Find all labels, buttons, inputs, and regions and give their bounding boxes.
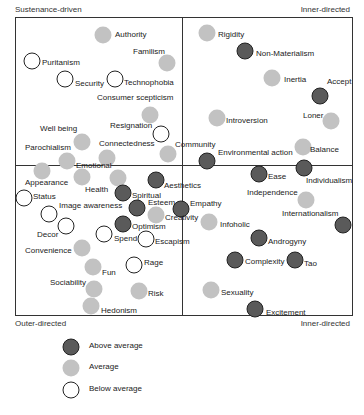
point-label-empathy: Empathy	[190, 199, 222, 208]
point-label-esteem: Esteem	[148, 198, 175, 207]
point-label-excitement: Excitement	[266, 308, 306, 317]
point-label-spend: Spend	[114, 234, 137, 243]
point-marker-tao	[287, 252, 304, 269]
point-marker-spend	[96, 226, 113, 243]
point-label-status: Status	[33, 192, 56, 201]
point-marker-esteem	[129, 200, 146, 217]
legend-label: Average	[89, 362, 119, 371]
point-label-well-being: Well being	[40, 124, 77, 133]
point-label-appearance: Appearance	[25, 178, 68, 187]
point-label-balance: Balance	[310, 145, 339, 154]
point-label-sexuality: Sexuality	[221, 288, 253, 297]
point-label-non-materialism: Non-Materialism	[256, 49, 314, 58]
point-label-security: Security	[75, 79, 104, 88]
point-label-internationalism: Internationalism	[282, 209, 338, 218]
point-marker-environmental-action	[199, 153, 216, 170]
point-marker-balance	[295, 139, 312, 156]
point-marker-escapism	[138, 231, 155, 248]
legend-label: Above average	[89, 341, 143, 350]
point-label-hedonism: Hedonism	[101, 306, 137, 315]
point-marker-rage	[126, 257, 143, 274]
point-marker-authority	[95, 27, 112, 44]
point-marker-well-being	[74, 134, 91, 151]
point-label-authority: Authority	[115, 30, 147, 39]
point-marker-convenience	[74, 240, 91, 257]
point-label-creativity: Creativity	[165, 213, 198, 222]
point-label-aesthetics: Aesthetics	[164, 181, 201, 190]
point-marker-familism	[159, 55, 176, 72]
point-marker-security	[57, 71, 74, 88]
point-label-inertia: Inertia	[284, 75, 306, 84]
point-label-technophobia: Technophobia	[124, 78, 174, 87]
point-label-parochialism: Parochialism	[25, 143, 71, 152]
point-label-introversion: Introversion	[226, 116, 268, 125]
point-marker-androgyny	[251, 230, 268, 247]
quadrant-label-bottom-left: Outer-directed	[15, 319, 66, 328]
point-marker-puritanism	[24, 53, 41, 70]
point-label-resignation: Resignation	[110, 121, 152, 130]
point-marker-accept	[312, 88, 329, 105]
point-marker-rigidity	[199, 25, 216, 42]
point-marker-non-materialism	[237, 43, 254, 60]
point-label-risk: Risk	[148, 289, 164, 298]
point-label-decor: Decor	[37, 230, 58, 239]
point-marker-decor	[58, 218, 75, 235]
point-marker-sexuality	[203, 282, 220, 299]
point-marker-ease	[251, 166, 268, 183]
point-marker-fun	[85, 259, 102, 276]
vertical-axis-divider	[182, 17, 183, 316]
point-label-escapism: Escapism	[155, 237, 190, 246]
point-marker-infoholic	[201, 214, 218, 231]
above-average-marker-icon	[63, 339, 80, 356]
point-marker-internationalism	[335, 217, 352, 234]
point-marker-independence	[298, 192, 315, 209]
point-marker-parochialism	[59, 153, 76, 170]
point-label-puritanism: Puritanism	[42, 58, 80, 67]
point-label-rage: Rage	[144, 258, 163, 267]
point-marker-appearance	[34, 163, 51, 180]
point-marker-introversion	[209, 110, 226, 127]
point-label-loner: Loner	[303, 111, 323, 120]
point-label-familism: Familism	[133, 47, 165, 56]
point-label-health: Health	[85, 185, 108, 194]
quadrant-label-bottom-right: Inner-directed	[301, 319, 350, 328]
point-label-individualism: Individualism	[306, 176, 352, 185]
quadrant-label-top-left: Sustenance-driven	[15, 5, 82, 14]
below-average-marker-icon	[63, 382, 80, 399]
point-marker-technophobia	[107, 71, 124, 88]
point-label-rigidity: Rigidity	[218, 30, 244, 39]
point-marker-individualism	[296, 160, 313, 177]
point-marker-loner	[323, 113, 340, 130]
point-marker-optimism	[115, 216, 132, 233]
point-marker-resignation	[153, 126, 170, 143]
point-marker-status	[16, 190, 33, 207]
legend-label: Below average	[89, 384, 142, 393]
point-label-independence: Independence	[247, 188, 298, 197]
point-marker-health	[74, 169, 91, 186]
point-label-convenience: Convenience	[25, 246, 72, 255]
point-marker-spiritual	[115, 185, 132, 202]
point-marker-creativity	[148, 207, 165, 224]
point-label-image-awareness: Image awareness	[59, 201, 122, 210]
quadrant-label-top-right: Inner-directed	[301, 5, 350, 14]
point-label-environmental-action: Environmental action	[218, 148, 293, 157]
point-label-accept: Accept	[327, 77, 351, 86]
point-marker-sociability	[86, 281, 103, 298]
point-label-tao: Tao	[304, 259, 317, 268]
point-marker-community	[160, 146, 177, 163]
point-marker-risk	[131, 283, 148, 300]
point-marker-image-awareness	[41, 206, 58, 223]
point-label-infoholic: Infoholic	[220, 220, 250, 229]
point-label-consumer-scepticism: Consumer scepticism	[97, 93, 173, 102]
point-marker-aesthetics	[148, 172, 165, 189]
point-label-androgyny: Androgyny	[268, 237, 306, 246]
point-label-connectedness: Connectedness	[99, 139, 155, 148]
point-marker-inertia	[264, 70, 281, 87]
point-label-optimism: Optimism	[132, 222, 166, 231]
point-label-ease: Ease	[268, 172, 286, 181]
point-label-sociability: Sociability	[50, 278, 86, 287]
point-label-fun: Fun	[102, 268, 116, 277]
average-marker-icon	[63, 360, 80, 377]
point-label-community: Community	[175, 140, 215, 149]
point-marker-hedonism	[83, 298, 100, 315]
